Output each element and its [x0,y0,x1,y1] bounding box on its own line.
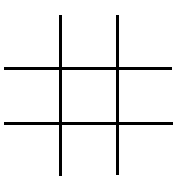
cell-6[interactable] [4,125,59,176]
tic-tac-toe-board [0,0,185,182]
cell-4[interactable] [62,70,116,122]
cell-3[interactable] [4,70,59,122]
cell-1[interactable] [62,15,116,67]
cell-2[interactable] [119,15,172,67]
cell-7[interactable] [62,125,116,176]
cell-8[interactable] [119,125,172,176]
cell-0[interactable] [4,15,59,67]
cell-5[interactable] [119,70,172,122]
